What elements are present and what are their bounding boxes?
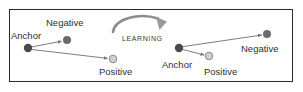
node-anchor-left xyxy=(24,44,32,52)
learning-arrowhead-icon xyxy=(156,17,167,30)
label-negative-left: Negative xyxy=(46,18,84,28)
node-negative-right xyxy=(263,30,271,38)
edge-anchor-negative-left xyxy=(32,41,62,47)
node-positive-left xyxy=(109,55,117,63)
edge-anchor-positive-right xyxy=(183,50,204,56)
edge-anchor-positive-left xyxy=(32,50,108,59)
label-anchor-right: Anchor xyxy=(162,60,192,70)
node-anchor-right xyxy=(175,44,183,52)
cluster-before-learning-edges xyxy=(32,41,108,58)
node-negative-left xyxy=(63,36,71,44)
node-positive-right xyxy=(205,52,213,60)
label-learning: LEARNING xyxy=(122,35,163,43)
triplet-loss-diagram: Anchor Negative Positive LEARNING Anchor… xyxy=(0,0,303,92)
learning-arrow xyxy=(113,16,167,32)
label-anchor-left: Anchor xyxy=(11,31,41,41)
label-positive-left: Positive xyxy=(99,67,132,77)
label-positive-right: Positive xyxy=(204,67,237,77)
label-negative-right: Negative xyxy=(241,44,279,54)
